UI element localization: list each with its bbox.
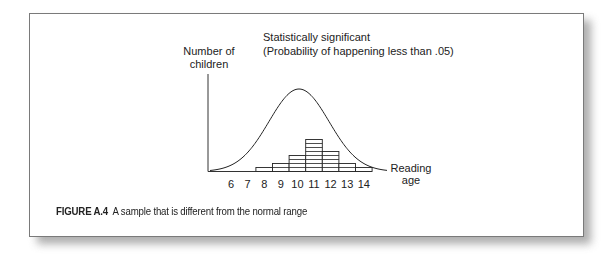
chart: Statistically significant (Probability o… — [0, 0, 616, 263]
x-axis-label-2: age — [402, 174, 420, 186]
x-tick-label: 14 — [358, 178, 370, 190]
chart-title: Statistically significant — [263, 31, 370, 43]
histogram-bar — [356, 168, 373, 172]
caption-text: A sample that is different from the norm… — [113, 205, 307, 217]
figure-caption: FIGURE A.4A sample that is different fro… — [56, 205, 307, 217]
histogram-bars — [256, 140, 372, 172]
y-axis-label-2: children — [190, 58, 229, 70]
x-tick-labels: 67891011121314 — [228, 178, 370, 190]
x-tick-label: 7 — [245, 178, 251, 190]
x-tick-label: 12 — [324, 178, 336, 190]
x-tick-label: 6 — [228, 178, 234, 190]
x-tick-label: 10 — [291, 178, 303, 190]
caption-label: FIGURE A.4 — [56, 205, 108, 217]
x-axis-label: Reading — [391, 162, 432, 174]
x-tick-label: 11 — [308, 178, 319, 190]
x-tick-label: 13 — [341, 178, 353, 190]
x-tick-label: 8 — [261, 178, 267, 190]
y-axis-label: Number of — [183, 45, 235, 57]
histogram-bar — [322, 152, 339, 172]
histogram-bar — [256, 168, 273, 172]
x-tick-label: 9 — [278, 178, 284, 190]
chart-subtitle: (Probability of happening less than .05) — [263, 45, 454, 57]
